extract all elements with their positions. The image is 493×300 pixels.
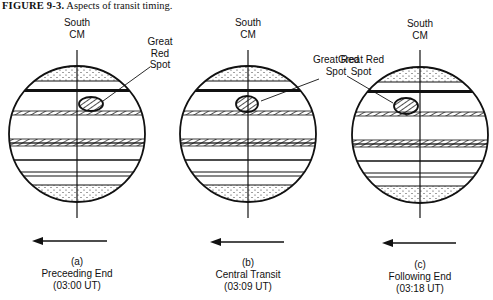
- panel-letter-c: (c): [360, 259, 480, 271]
- rotation-arrow-b: [210, 238, 284, 246]
- great-red-spot-c: [394, 98, 418, 114]
- rotation-arrow-a: [32, 237, 107, 245]
- jupiter-disk-a: [7, 50, 150, 218]
- panel-time-a: (03:00 UT): [17, 280, 137, 292]
- great-red-spot-a: [79, 97, 103, 111]
- great-red-spot-b: [236, 96, 258, 112]
- jupiter-disk-b: [178, 50, 319, 218]
- grs-label-c: Great RedSpot: [333, 54, 389, 77]
- panel-time-c: (03:18 UT): [360, 283, 480, 295]
- rotation-arrow-c: [382, 239, 456, 247]
- transit-diagram: [0, 0, 493, 300]
- panel-caption-c: (c) Following End (03:18 UT): [360, 259, 480, 295]
- panel-caption-b: (b) Central Transit (03:09 UT): [188, 257, 308, 293]
- panel-time-b: (03:09 UT): [188, 281, 308, 293]
- panel-letter-b: (b): [188, 257, 308, 269]
- panel-caption-a: (a) Preceeding End (03:00 UT): [17, 256, 137, 292]
- panel-name-a: Preceeding End: [17, 268, 137, 280]
- grs-leader-a: [103, 67, 150, 101]
- panel-name-b: Central Transit: [188, 269, 308, 281]
- panel-letter-a: (a): [17, 256, 137, 268]
- panel-name-c: Following End: [360, 271, 480, 283]
